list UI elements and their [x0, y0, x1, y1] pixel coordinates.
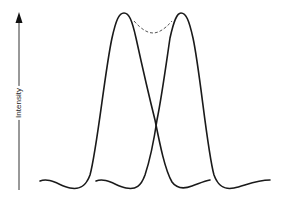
intensity-axis-label: Intensity — [14, 86, 24, 120]
combined-dip-dashed-curve — [134, 21, 172, 33]
right-peak-curve — [96, 13, 270, 188]
intensity-peaks-figure: Intensity — [0, 0, 283, 207]
arrow-up-icon — [16, 12, 23, 23]
figure-canvas — [0, 0, 283, 207]
left-peak-curve — [40, 13, 210, 188]
